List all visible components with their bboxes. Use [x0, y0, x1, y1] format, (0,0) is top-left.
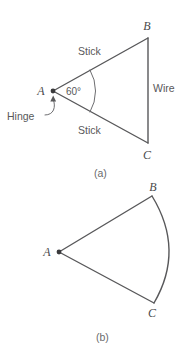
- radius-ac-segment: [59, 252, 154, 303]
- edge-label-wire: Wire: [153, 82, 175, 94]
- vertex-label-b-panel-b: B: [149, 180, 157, 194]
- hinge-arrowhead-icon: [50, 96, 56, 102]
- vertex-label-c-panel-b: C: [148, 306, 157, 320]
- panel-a: A B C Stick Stick Wire 60° Hinge (a): [7, 19, 175, 179]
- radius-ab-segment: [59, 196, 152, 252]
- figure-container: A B C Stick Stick Wire 60° Hinge (a) A B…: [0, 0, 186, 357]
- edge-label-stick-top: Stick: [78, 45, 102, 57]
- vertex-label-a-panel-b: A: [42, 245, 51, 259]
- caption-panel-a: (a): [94, 167, 107, 179]
- hinge-leader-line: [45, 100, 54, 116]
- vertex-dot-a: [51, 89, 56, 94]
- arc-bc-curve: [152, 196, 169, 303]
- edge-label-stick-bottom: Stick: [78, 124, 102, 136]
- annotation-label-hinge: Hinge: [7, 110, 35, 122]
- physics-figure-svg: A B C Stick Stick Wire 60° Hinge (a) A B…: [0, 0, 186, 357]
- vertex-label-c-panel-a: C: [143, 148, 152, 162]
- angle-arc-60: [90, 70, 96, 112]
- vertex-label-b-panel-a: B: [143, 19, 151, 33]
- panel-b: A B C (b): [42, 180, 169, 343]
- vertex-dot-a-panel-b: [57, 250, 62, 255]
- caption-panel-b: (b): [96, 331, 109, 343]
- angle-label-60-degrees: 60°: [66, 86, 81, 97]
- vertex-label-a-panel-a: A: [36, 84, 45, 98]
